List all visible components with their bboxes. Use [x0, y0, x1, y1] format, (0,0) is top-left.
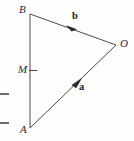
- vector-triangle-figure: B O A M b a: [0, 0, 134, 141]
- vector-label-b: b: [72, 11, 78, 22]
- vertex-label-M: M: [18, 64, 27, 75]
- vertex-label-B: B: [19, 4, 26, 15]
- segment-AO: [30, 45, 116, 128]
- vertex-label-O: O: [120, 38, 128, 49]
- vertex-label-A: A: [20, 124, 27, 135]
- vector-label-a: a: [79, 82, 84, 93]
